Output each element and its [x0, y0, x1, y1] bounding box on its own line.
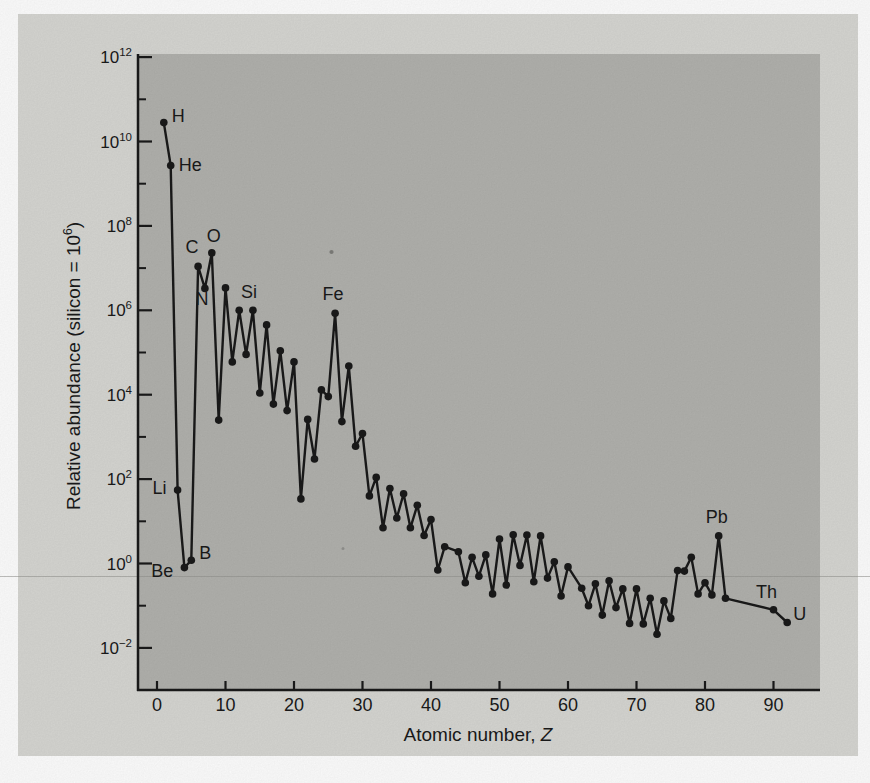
scan-noise-layer	[0, 0, 870, 783]
scan-grain-overlay	[0, 0, 870, 783]
abundance-vs-atomic-number-chart: 1012101010810610410210010−20102030405060…	[0, 0, 870, 783]
